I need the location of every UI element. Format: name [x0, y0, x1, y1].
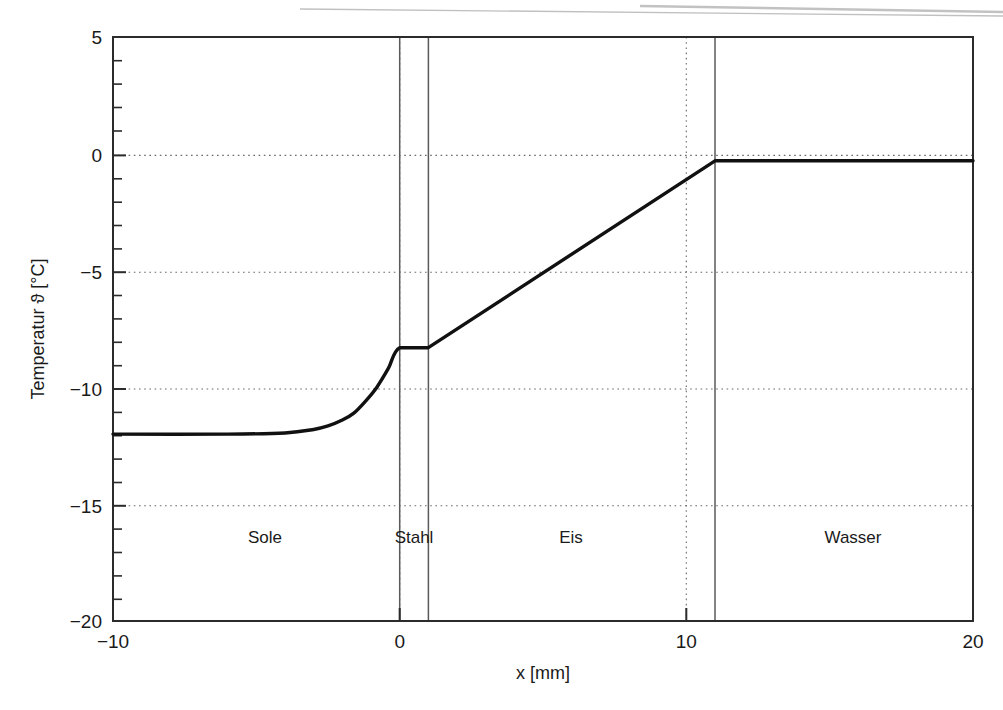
- y-tick-label-5: 5: [91, 27, 102, 48]
- y-tick-label-0: 0: [91, 145, 102, 166]
- y-axis-title: Temperatur ϑ [°C]: [28, 258, 48, 399]
- y-tick-label--15: −15: [70, 496, 102, 517]
- region-label-eis: Eis: [559, 528, 583, 547]
- x-axis-title: x [mm]: [516, 663, 570, 683]
- chart-background: [0, 0, 1003, 710]
- y-tick-label--10: −10: [70, 379, 102, 400]
- region-label-wasser: Wasser: [825, 528, 882, 547]
- region-label-sole: Sole: [248, 528, 282, 547]
- x-tick-label-20: 20: [962, 631, 983, 652]
- x-tick-label--10: −10: [97, 631, 129, 652]
- y-tick-label--20: −20: [70, 611, 102, 632]
- region-label-stahl: Stahl: [395, 528, 434, 547]
- y-tick-label--5: −5: [80, 262, 102, 283]
- x-tick-label-0: 0: [394, 631, 405, 652]
- chart-figure: 5 0 −5 −10 −15 −20 −10 0 10 20 x [mm] Te…: [0, 0, 1003, 710]
- x-tick-label-10: 10: [676, 631, 697, 652]
- temperature-profile-chart: 5 0 −5 −10 −15 −20 −10 0 10 20 x [mm] Te…: [0, 0, 1003, 710]
